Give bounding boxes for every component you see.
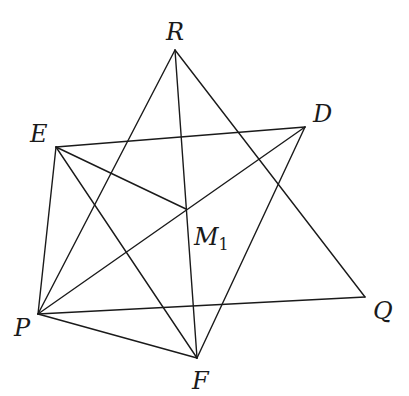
segment-e-m1 <box>56 147 186 209</box>
label-f: F <box>191 367 210 395</box>
segment-p-f <box>38 314 197 358</box>
label-d: D <box>312 100 332 128</box>
segments-group <box>38 50 365 358</box>
label-e: E <box>29 120 48 148</box>
label-q: Q <box>373 297 393 325</box>
segment-r-q <box>175 50 365 297</box>
segment-e-p <box>38 147 56 314</box>
geometry-diagram: R E D M1 P Q F <box>0 0 409 396</box>
label-m1: M1 <box>193 223 229 254</box>
label-m1-main: M <box>193 223 220 251</box>
segment-p-q <box>38 297 365 314</box>
segment-p-d <box>38 127 305 314</box>
label-r: R <box>165 18 184 46</box>
segment-r-f <box>175 50 197 358</box>
label-m1-subscript: 1 <box>219 235 229 254</box>
labels-group: R E D M1 P Q F <box>13 18 393 395</box>
segment-r-p <box>38 50 175 314</box>
label-p: P <box>13 314 31 342</box>
